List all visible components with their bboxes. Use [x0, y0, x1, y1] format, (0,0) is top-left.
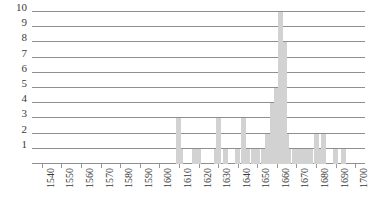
- x-tick-label-1580: 1580: [124, 168, 134, 188]
- bar: [308, 149, 313, 164]
- bar: [341, 149, 346, 164]
- x-tick-label-1640: 1640: [242, 168, 252, 188]
- y-tick-label-9: 9: [22, 17, 28, 28]
- plot-area: [32, 12, 365, 164]
- y-tick-label-4: 4: [22, 93, 28, 104]
- x-tick-label-1630: 1630: [222, 168, 232, 188]
- y-tick-label-3: 3: [22, 108, 28, 119]
- y-tick-label-10: 10: [16, 2, 27, 13]
- y-tick-label-6: 6: [22, 63, 28, 74]
- x-tick-label-1570: 1570: [105, 168, 115, 188]
- x-tick-label-1690: 1690: [340, 168, 350, 188]
- bar: [216, 118, 221, 164]
- bar: [235, 149, 240, 164]
- bar: [196, 149, 201, 164]
- x-tick-label-1560: 1560: [85, 168, 95, 188]
- bar: [333, 149, 338, 164]
- x-tick-label-1700: 1700: [359, 168, 369, 188]
- bar: [321, 134, 326, 164]
- y-tick-label-5: 5: [22, 78, 28, 89]
- x-axis: 1540155015601570158015901600161016201630…: [32, 168, 365, 204]
- x-tick-label-1540: 1540: [46, 168, 56, 188]
- x-tick-label-1680: 1680: [320, 168, 330, 188]
- bar: [255, 149, 260, 164]
- y-tick-label-2: 2: [22, 124, 28, 135]
- y-tick-label-1: 1: [22, 139, 28, 150]
- bar: [286, 149, 291, 164]
- x-tick-label-1610: 1610: [183, 168, 193, 188]
- histogram-chart: 12345678910 1540155015601570158015901600…: [0, 0, 371, 205]
- x-tick-label-1600: 1600: [163, 168, 173, 188]
- y-tick-label-8: 8: [22, 32, 28, 43]
- bar: [245, 149, 250, 164]
- x-tick-label-1650: 1650: [261, 168, 271, 188]
- bar: [178, 149, 183, 164]
- x-tick-label-1670: 1670: [300, 168, 310, 188]
- x-tick-label-1620: 1620: [203, 168, 213, 188]
- x-tick-label-1590: 1590: [144, 168, 154, 188]
- x-tick-label-1660: 1660: [281, 168, 291, 188]
- y-axis: 12345678910: [0, 12, 32, 164]
- bars-layer: [32, 12, 365, 164]
- x-tick-label-1550: 1550: [65, 168, 75, 188]
- y-tick-label-7: 7: [22, 48, 28, 59]
- bar: [223, 149, 228, 164]
